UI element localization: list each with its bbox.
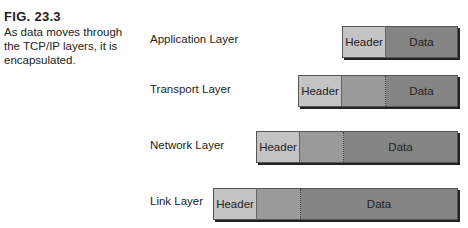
data-block: Data <box>344 132 457 162</box>
encapsulated-header-block <box>342 76 386 106</box>
header-block: Header <box>214 189 257 219</box>
packet-application: Header Data <box>342 26 458 58</box>
data-block: Data <box>386 76 457 106</box>
encapsulated-header-block <box>300 132 344 162</box>
packet-network: Header Data <box>256 131 458 163</box>
figure-caption: FIG. 23.3 As data moves through the TCP/… <box>4 9 124 67</box>
header-block: Header <box>343 27 386 57</box>
layer-label-application: Application Layer <box>150 33 238 45</box>
layer-label-transport: Transport Layer <box>150 83 231 95</box>
header-block: Header <box>299 76 342 106</box>
data-block: Data <box>386 27 457 57</box>
encapsulated-header-block <box>257 189 301 219</box>
layer-label-link: Link Layer <box>150 195 203 207</box>
data-block: Data <box>301 189 457 219</box>
header-block: Header <box>257 132 300 162</box>
figure-number: FIG. 23.3 <box>4 9 124 24</box>
caption-text: As data moves through the TCP/IP layers,… <box>4 25 124 67</box>
packet-link: Header Data <box>213 188 458 220</box>
layer-label-network: Network Layer <box>150 139 224 151</box>
packet-transport: Header Data <box>298 75 458 107</box>
